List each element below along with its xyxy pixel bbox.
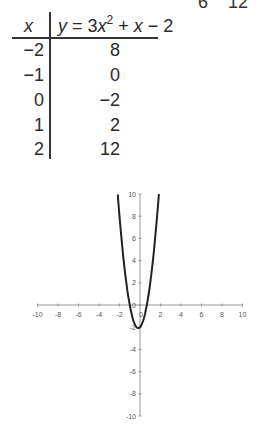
x-axis-ticks: -10-8-6-4-22468100 [32, 304, 246, 319]
x-tick-label: 0 [139, 311, 143, 318]
y-tick-label: 4 [132, 257, 136, 264]
x-tick-label: -10 [32, 311, 42, 318]
y-tick-label: -6 [130, 368, 136, 375]
x-tick-label: 8 [220, 311, 224, 318]
y-tick-label: 6 [132, 235, 136, 242]
x-tick-label: -6 [75, 311, 81, 318]
y-tick-label: -4 [130, 346, 136, 353]
x-tick-label: 2 [159, 311, 163, 318]
x-tick-label: 4 [179, 311, 183, 318]
x-tick-label: -8 [55, 311, 61, 318]
y-tick-label: -8 [130, 390, 136, 397]
x-tick-label: -2 [116, 311, 122, 318]
x-tick-label: 10 [239, 311, 247, 318]
y-tick-label: 10 [128, 191, 136, 198]
function-graph: -10-8-6-4-22468100 1086420-2-4-6-8-10 [0, 0, 260, 442]
y-tick-label: 2 [132, 279, 136, 286]
parabola-curve [118, 194, 159, 328]
y-tick-label: 0 [132, 302, 136, 309]
y-tick-label: 8 [132, 213, 136, 220]
y-tick-label: -10 [126, 413, 136, 420]
x-tick-label: 6 [200, 311, 204, 318]
x-tick-label: -4 [96, 311, 102, 318]
